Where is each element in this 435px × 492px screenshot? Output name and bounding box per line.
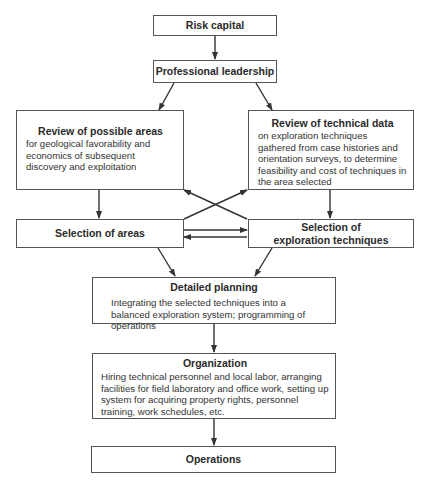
node-title: Review of possible areas (26, 125, 175, 138)
node-title: Organization (101, 357, 329, 370)
node-risk-capital: Risk capital (153, 15, 277, 36)
arrow-leadership-to-review-technical (256, 83, 272, 110)
node-detailed-planning: Detailed planning Integrating the select… (92, 277, 336, 324)
node-professional-leadership: Professional leadership (153, 60, 277, 83)
node-title-line1: Selection of (249, 221, 413, 234)
node-description: Hiring technical personnel and local lab… (101, 371, 329, 417)
node-title: Selection of areas (17, 227, 183, 240)
node-organization: Organization Hiring technical personnel … (92, 353, 336, 419)
node-title: Review of technical data (258, 117, 407, 130)
arrow-selection-areas-to-planning (158, 248, 175, 276)
node-operations: Operations (91, 446, 336, 473)
node-description: on exploration techniques gathered from … (258, 130, 407, 188)
node-selection-of-exploration-techniques: Selection of exploration techniques (248, 219, 414, 248)
node-title: Operations (92, 453, 335, 466)
node-title-line2: exploration techniques (249, 234, 413, 247)
node-selection-of-areas: Selection of areas (16, 219, 184, 248)
arrow-leadership-to-review-areas (159, 83, 174, 110)
node-review-possible-areas: Review of possible areas for geological … (16, 110, 184, 190)
node-title: Risk capital (154, 19, 276, 32)
arrow-selection-techniques-to-planning (255, 248, 272, 276)
node-description: for geological favorability and economic… (26, 138, 175, 173)
node-title: Professional leadership (154, 65, 276, 78)
node-title: Detailed planning (101, 281, 327, 294)
node-review-technical-data: Review of technical data on exploration … (248, 110, 414, 190)
node-description: Integrating the selected techniques into… (111, 297, 327, 332)
